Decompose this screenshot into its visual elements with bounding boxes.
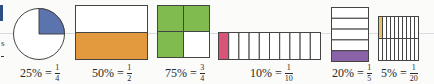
shaded-cell: [379, 17, 383, 39]
caption-tenth: 10% = 110: [250, 64, 293, 83]
percent-label: 20%: [332, 66, 354, 81]
caption-fifth: 20% = 15: [332, 64, 372, 83]
cell: [387, 39, 391, 61]
denominator: 10: [285, 75, 293, 83]
numerator: 1: [367, 64, 371, 72]
fraction: 12: [127, 64, 132, 83]
fraction: 120: [410, 64, 418, 83]
shaded-cell: [158, 32, 184, 58]
cell: [332, 18, 369, 29]
cell: [270, 33, 280, 60]
shaded-quarter: [39, 9, 65, 35]
equals-sign: =: [117, 66, 124, 81]
figure-three-quarter-grid: [157, 5, 211, 61]
equals-sign: =: [357, 66, 364, 81]
cell: [415, 39, 419, 61]
cropped-edge-block: [0, 5, 3, 21]
cell: [403, 17, 407, 39]
cell: [332, 8, 369, 19]
numerator: 1: [127, 64, 131, 72]
cell: [403, 39, 407, 61]
fraction: 14: [55, 64, 60, 83]
shaded-cell: [219, 33, 229, 60]
caption-twentieth: 5% = 120: [381, 64, 418, 83]
cropped-edge-dash: [1, 56, 4, 57]
cropped-edge-text: s: [1, 38, 5, 48]
shaded-cell: [158, 6, 184, 32]
numerator: 1: [287, 64, 291, 72]
cell: [387, 17, 391, 39]
equals-sign: =: [400, 66, 407, 81]
cell: [395, 17, 399, 39]
equals-sign: =: [190, 66, 197, 81]
cell: [280, 33, 290, 60]
cell: [76, 6, 148, 33]
denominator: 4: [55, 75, 59, 83]
figure-tenth-strip: [218, 32, 322, 62]
denominator: 2: [127, 75, 131, 83]
figure-half-rect: [75, 5, 149, 61]
cell: [391, 17, 395, 39]
percent-label: 50%: [92, 66, 114, 81]
cell: [395, 39, 399, 61]
numerator: 1: [55, 64, 59, 72]
fraction: 34: [200, 64, 205, 83]
shaded-cell: [184, 6, 210, 32]
figure-fifth-stack: [331, 7, 371, 63]
cell: [184, 32, 210, 58]
cell: [249, 33, 259, 60]
percent-label: 5%: [381, 66, 397, 81]
cell: [407, 39, 411, 61]
percent-label: 10%: [250, 66, 272, 81]
cell: [332, 40, 369, 51]
cell: [407, 17, 411, 39]
caption-three-quarter: 75% = 34: [165, 64, 205, 83]
caption-half: 50% = 12: [92, 64, 132, 83]
cell: [290, 33, 300, 60]
percent-label: 75%: [165, 66, 187, 81]
denominator: 20: [410, 75, 418, 83]
cell: [415, 17, 419, 39]
cell: [391, 39, 395, 61]
cell: [300, 33, 310, 60]
cell: [259, 33, 269, 60]
shaded-cell: [332, 51, 369, 62]
denominator: 5: [367, 75, 371, 83]
figure-twentieth-grid: [378, 16, 420, 62]
shaded-cell: [76, 33, 148, 60]
numerator: 1: [412, 64, 416, 72]
cell: [379, 39, 383, 61]
equals-sign: =: [275, 66, 282, 81]
cell: [399, 17, 403, 39]
figure-quarter-circle: [13, 4, 65, 60]
denominator: 4: [200, 75, 204, 83]
cell: [383, 39, 387, 61]
cell: [332, 29, 369, 40]
cell: [411, 39, 415, 61]
fraction: 110: [285, 64, 293, 83]
cell: [411, 17, 415, 39]
cell: [310, 33, 320, 60]
cell: [229, 33, 239, 60]
equals-sign: =: [45, 66, 52, 81]
caption-quarter: 25% = 14: [20, 64, 60, 83]
fraction: 15: [367, 64, 372, 83]
percent-label: 25%: [20, 66, 42, 81]
cell: [383, 17, 387, 39]
cell: [399, 39, 403, 61]
cell: [239, 33, 249, 60]
numerator: 3: [200, 64, 204, 72]
